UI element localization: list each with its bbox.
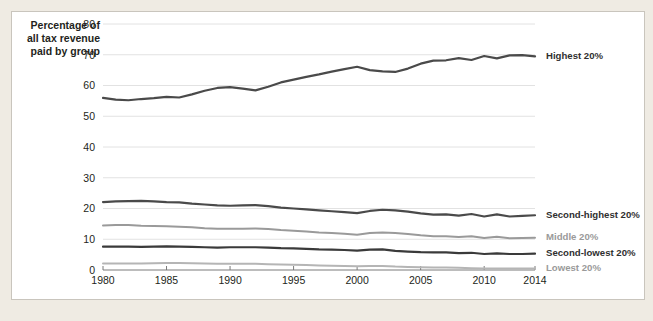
y-tick-label: 20: [83, 202, 95, 214]
y-tick-label: 30: [83, 172, 95, 184]
legend-label-1: Highest 20%: [546, 50, 604, 61]
y-axis-ticks: 01020304050607080: [83, 18, 95, 276]
x-tick-label: 2010: [472, 274, 496, 286]
y-tick-label: 70: [83, 49, 95, 61]
series-line-4: [103, 246, 535, 254]
series-line-1: [103, 55, 535, 100]
line-chart: 01020304050607080 1980198519901995200020…: [0, 0, 653, 321]
x-tick-label: 1995: [282, 274, 306, 286]
data-series: [103, 55, 535, 268]
gridlines: [103, 24, 535, 239]
series-legend: Highest 20%Second-highest 20%Middle 20%S…: [546, 50, 640, 273]
x-tick-label: 1990: [218, 274, 242, 286]
legend-label-5: Lowest 20%: [546, 262, 601, 273]
legend-label-3: Middle 20%: [546, 231, 599, 242]
x-tick-label: 2014: [523, 274, 547, 286]
y-tick-label: 10: [83, 233, 95, 245]
y-tick-label: 60: [83, 79, 95, 91]
x-tick-label: 2005: [409, 274, 433, 286]
x-axis-ticks: 19801985199019952000200520102014: [91, 274, 547, 286]
x-tick-label: 2000: [345, 274, 369, 286]
series-line-3: [103, 225, 535, 238]
y-tick-label: 40: [83, 141, 95, 153]
x-tick-label: 1980: [91, 274, 115, 286]
legend-label-2: Second-highest 20%: [546, 209, 640, 220]
x-tick-label: 1985: [155, 274, 179, 286]
y-tick-label: 80: [83, 18, 95, 30]
chart-screenshot: Percentage of all tax revenue paid by gr…: [0, 0, 653, 321]
series-line-5: [103, 263, 535, 269]
legend-label-4: Second-lowest 20%: [546, 247, 636, 258]
y-tick-label: 50: [83, 110, 95, 122]
